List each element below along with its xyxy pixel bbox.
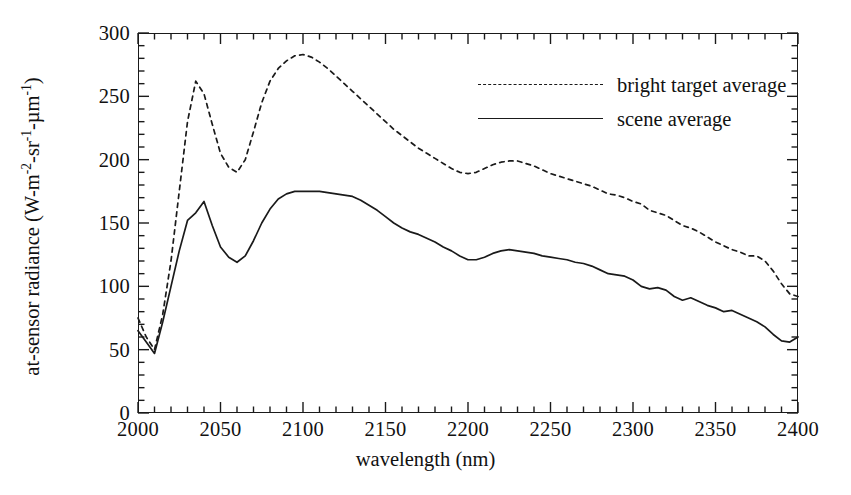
y-axis-title-mid-2: -µm bbox=[21, 95, 43, 130]
y-axis-title-lead: at-sensor radiance (W-m bbox=[21, 174, 43, 376]
x-tick-label: 2300 bbox=[612, 418, 654, 441]
x-axis-title: wavelength (nm) bbox=[0, 448, 851, 471]
y-axis-title: at-sensor radiance (W-m-2-sr-1-µm-1) bbox=[21, 17, 44, 437]
y-axis-exp-1: -2 bbox=[19, 163, 34, 174]
y-axis-title-tail: ) bbox=[21, 77, 43, 84]
x-tick-label: 2350 bbox=[695, 418, 737, 441]
series-line-scene-average bbox=[138, 191, 798, 353]
legend-label-bright-target-average: bright target average bbox=[617, 74, 786, 97]
y-tick-label: 200 bbox=[99, 148, 130, 171]
y-tick-label: 300 bbox=[99, 22, 130, 45]
x-tick-label: 2250 bbox=[530, 418, 572, 441]
x-tick-label: 2400 bbox=[777, 418, 819, 441]
y-axis-title-mid-1: -sr bbox=[21, 141, 43, 163]
legend-swatch-solid bbox=[478, 113, 603, 125]
x-tick-label: 2150 bbox=[365, 418, 407, 441]
y-tick-label: 50 bbox=[109, 338, 130, 361]
chart-legend: bright target average scene average bbox=[478, 68, 786, 136]
x-axis-tick-labels: 200020502100215022002250230023502400 bbox=[138, 418, 798, 448]
y-tick-label: 150 bbox=[99, 212, 130, 235]
legend-item-scene-average: scene average bbox=[478, 102, 786, 136]
x-tick-label: 2200 bbox=[447, 418, 489, 441]
y-tick-label: 250 bbox=[99, 85, 130, 108]
legend-label-scene-average: scene average bbox=[617, 108, 731, 131]
y-axis-tick-labels: 050100150200250300 bbox=[60, 33, 130, 413]
legend-item-bright-target-average: bright target average bbox=[478, 68, 786, 102]
chart-figure: 050100150200250300 200020502100215022002… bbox=[0, 0, 851, 495]
y-axis-exp-3: -1 bbox=[19, 84, 34, 95]
x-tick-label: 2100 bbox=[282, 418, 324, 441]
legend-swatch-dashed bbox=[478, 79, 603, 91]
y-tick-label: 100 bbox=[99, 275, 130, 298]
x-tick-label: 2000 bbox=[117, 418, 159, 441]
y-axis-exp-2: -1 bbox=[19, 130, 34, 141]
x-tick-label: 2050 bbox=[200, 418, 242, 441]
